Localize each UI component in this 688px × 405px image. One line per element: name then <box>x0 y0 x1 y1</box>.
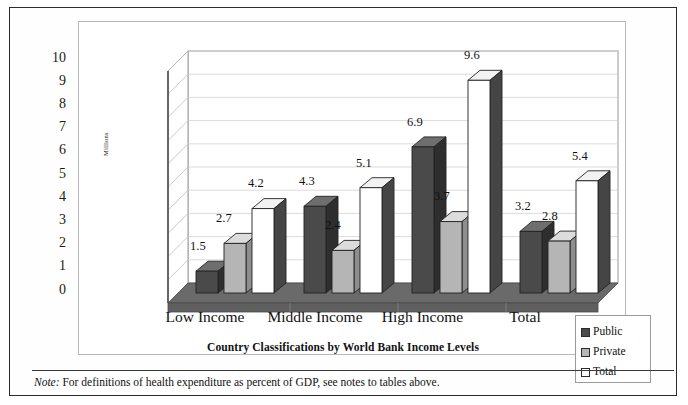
y-tick-label-10: 10 <box>44 50 66 66</box>
x-tick-label-high-income: High Income <box>365 308 480 326</box>
data-label-total-public: 3.2 <box>515 199 531 214</box>
data-label-middle-total: 5.1 <box>356 156 372 171</box>
legend-label-total: Total <box>593 366 616 378</box>
y-tick-label-2: 2 <box>44 235 66 251</box>
data-label-middle-private: 2.4 <box>325 218 341 233</box>
data-label-total-total: 5.4 <box>572 149 588 164</box>
x-tick-label-low-income: Low Income <box>150 308 260 326</box>
legend-label-public: Public <box>593 326 622 338</box>
y-tick-label-0: 0 <box>44 282 66 298</box>
legend-swatch-public-icon <box>581 328 590 337</box>
data-label-middle-public: 4.3 <box>299 174 315 189</box>
chart-svg <box>78 21 626 355</box>
y-axis-title: Millions <box>102 96 109 156</box>
legend-swatch-total-icon <box>581 368 590 377</box>
y-tick-label-6: 6 <box>44 142 66 158</box>
data-label-low-total: 4.2 <box>248 176 264 191</box>
figure-outer-border: Millions 10 9 8 7 6 5 4 3 2 1 0 1.5 2.7 … <box>9 7 677 396</box>
bar-high-income-total <box>468 70 502 293</box>
y-tick-label-3: 3 <box>44 212 66 228</box>
y-tick-label-4: 4 <box>44 189 66 205</box>
legend-item-private[interactable]: Private <box>581 342 650 362</box>
note-prefix: Note: <box>34 376 60 388</box>
y-tick-label-5: 5 <box>44 166 66 182</box>
chart-legend: Public Private Total <box>575 315 651 383</box>
data-label-high-total: 9.6 <box>464 48 480 63</box>
data-label-high-private: 3.7 <box>434 189 450 204</box>
y-tick-label-1: 1 <box>44 258 66 274</box>
legend-item-total[interactable]: Total <box>581 362 650 382</box>
bar-low-income-total <box>252 199 286 293</box>
data-label-high-public: 6.9 <box>407 115 423 130</box>
y-tick-label-8: 8 <box>44 96 66 112</box>
note-divider <box>32 370 674 371</box>
figure-note: Note: For definitions of health expendit… <box>34 376 440 388</box>
legend-label-private: Private <box>593 346 626 358</box>
y-tick-label-7: 7 <box>44 119 66 135</box>
legend-swatch-private-icon <box>581 348 590 357</box>
bar-total-total <box>576 171 610 293</box>
data-label-low-private: 2.7 <box>216 211 232 226</box>
bar-middle-income-total <box>360 178 394 293</box>
data-label-total-private: 2.8 <box>542 209 558 224</box>
legend-item-public[interactable]: Public <box>581 322 650 342</box>
note-text: For definitions of health expenditure as… <box>62 376 439 388</box>
data-label-low-public: 1.5 <box>190 239 206 254</box>
x-tick-label-total: Total <box>480 308 570 326</box>
y-tick-label-9: 9 <box>44 73 66 89</box>
bar-chart-plot <box>78 21 626 355</box>
x-tick-label-middle-income: Middle Income <box>250 308 380 326</box>
